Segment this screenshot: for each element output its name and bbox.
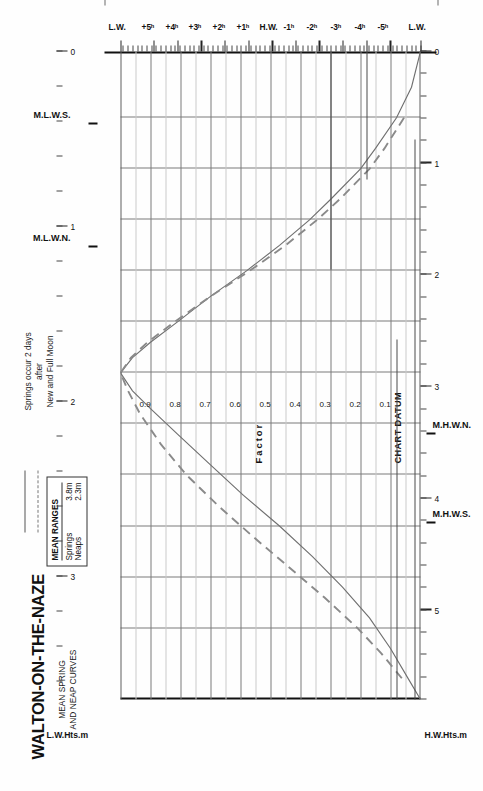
time-tick-minor [406, 45, 407, 51]
time-tick-minor [297, 45, 298, 51]
time-label--4ʰ: -4ʰ [354, 21, 365, 31]
time-tick-minor [321, 45, 322, 51]
time-label--3ʰ: -3ʰ [330, 21, 341, 31]
time-tick-minor [302, 45, 303, 51]
lw-height-label-1: 1 [70, 221, 75, 231]
time-tick-minor [245, 45, 246, 51]
lw-height-tick-minor [56, 330, 62, 331]
time-tick-minor [141, 45, 142, 51]
time-tick-minor [382, 45, 383, 51]
note-line-3: New and Full Moon [44, 311, 55, 431]
time-label-L.W.: L.W. [108, 21, 125, 31]
time-tick-minor [373, 45, 374, 51]
time-tick--3ʰ [342, 40, 343, 51]
factor-axis-title: Factor [252, 422, 263, 463]
time-tick-minor [132, 45, 133, 51]
time-label--1ʰ: -1ʰ [283, 21, 294, 31]
time-tick-minor [231, 45, 232, 51]
marker-mlwn [330, 51, 331, 269]
tidal-curves-svg [120, 51, 420, 699]
plot-area: 0.90.80.70.60.50.40.30.20.1 Factor CHART… [120, 51, 420, 699]
level-label-mhwn: M.H.W.N. [432, 419, 471, 429]
hw-height-label-3: 3 [434, 381, 439, 391]
time-tick-minor [311, 45, 312, 51]
time-tick-minor [396, 45, 397, 51]
time-axis: L.W.+5ʰ+4ʰ+3ʰ+2ʰ+1ʰH.W.-1ʰ-2ʰ-3ʰ-4ʰ-5ʰL.… [104, 5, 436, 51]
rotated-chart-canvas: WALTON-ON-THE-NAZE MEAN SPRING AND NEAP … [0, 0, 483, 791]
time-tick-minor [155, 45, 156, 51]
factor-label-0.3: 0.3 [319, 399, 330, 408]
lw-height-tick-minor [56, 190, 62, 191]
hw-height-tick-minor [420, 340, 426, 341]
hw-height-tick-minor [420, 318, 426, 319]
time-tick-minor [288, 45, 289, 51]
time-label-+5ʰ: +5ʰ [141, 21, 154, 31]
time-tick-minor [193, 45, 194, 51]
factor-label-0.7: 0.7 [199, 399, 210, 408]
level-dash-mlws [88, 122, 97, 124]
marker-mlws [366, 51, 367, 179]
lw-height-label-0: 0 [70, 46, 75, 56]
hw-height-tick-minor [420, 184, 426, 185]
time-tick-minor [203, 45, 204, 51]
level-label-mhws: M.H.W.S. [432, 508, 470, 518]
hw-height-tick-minor [420, 206, 426, 207]
time-label--5ʰ: -5ʰ [377, 21, 388, 31]
time-tick-minor [269, 45, 270, 51]
lw-height-tick-minor [56, 155, 62, 156]
time-tick-minor [316, 45, 317, 51]
time-tick-minor [174, 45, 175, 51]
hw-height-label-2: 2 [434, 269, 439, 279]
time-tick-minor [160, 45, 161, 51]
lw-height-tick-minor [56, 645, 62, 646]
time-tick-minor [340, 45, 341, 51]
hw-height-tick-minor [420, 497, 426, 498]
time-tick-minor [368, 45, 369, 51]
time-tick-minor [283, 45, 284, 51]
factor-label-0.6: 0.6 [229, 399, 240, 408]
page-title: WALTON-ON-THE-NAZE [28, 573, 47, 759]
level-dash-mlwn [88, 245, 97, 247]
time-tick-+5ʰ [153, 40, 154, 51]
lw-height-tick-minor [56, 540, 62, 541]
time-tick-minor [292, 45, 293, 51]
hw-height-tick-minor [420, 408, 426, 409]
lw-height-tick-minor [56, 470, 62, 471]
time-label-+1ʰ: +1ʰ [236, 21, 249, 31]
hw-height-tick-minor [420, 139, 426, 140]
time-tick-minor [363, 45, 364, 51]
time-tick-minor [127, 45, 128, 51]
time-tick-minor [184, 45, 185, 51]
time-tick-minor [387, 45, 388, 51]
time-tick-minor [335, 45, 336, 51]
hw-height-tick-minor [420, 609, 426, 610]
hw-height-tick-minor [420, 676, 426, 677]
time-tick-minor [415, 45, 416, 51]
time-label--2ʰ: -2ʰ [306, 21, 317, 31]
lw-height-tick-minor [56, 120, 62, 121]
factor-label-0.5: 0.5 [259, 399, 270, 408]
time-label-+2ʰ: +2ʰ [212, 21, 225, 31]
time-tick-+1ʰ [248, 40, 249, 51]
lw-height-tick-minor [56, 50, 62, 51]
time-tick-minor [344, 45, 345, 51]
time-tick--2ʰ [318, 40, 319, 51]
time-tick-minor [392, 45, 393, 51]
time-tick-+4ʰ [177, 40, 178, 51]
time-tick-minor [401, 45, 402, 51]
time-tick-minor [359, 45, 360, 51]
hw-height-tick-minor [420, 296, 426, 297]
time-tick-minor [354, 45, 355, 51]
hw-height-tick-minor [420, 653, 426, 654]
lw-height-tick-minor [56, 400, 62, 401]
hw-height-label-0: 0 [434, 46, 439, 56]
time-tick-minor [250, 45, 251, 51]
hw-height-scale: 012345 [420, 51, 460, 699]
springs-note: Springs occur 2 days after New and Full … [22, 311, 55, 431]
tidal-curve-page: WALTON-ON-THE-NAZE MEAN SPRING AND NEAP … [0, 0, 483, 791]
time-tick-minor [207, 45, 208, 51]
time-tick-L.W. [120, 40, 121, 51]
marker-mhws [414, 139, 415, 699]
time-tick-minor [255, 45, 256, 51]
hw-height-tick-minor [420, 229, 426, 230]
